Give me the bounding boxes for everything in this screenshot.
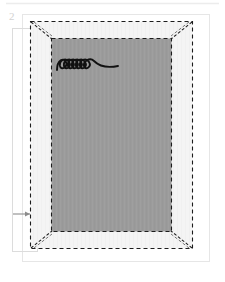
figure-canvas [0,0,225,282]
figure-svg [0,0,225,282]
figure-number-label: 2 [9,11,15,22]
